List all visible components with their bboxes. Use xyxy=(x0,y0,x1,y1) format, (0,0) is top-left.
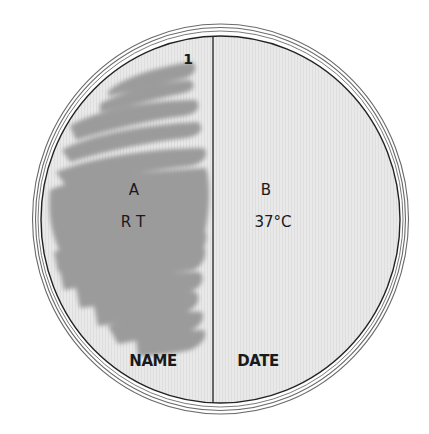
date-label: DATE xyxy=(237,354,278,369)
room-temperature-label: R T xyxy=(121,215,145,230)
name-label: NAME xyxy=(129,354,176,369)
streak-number-label: 1 xyxy=(183,52,193,66)
temperature-37c-label: 37°C xyxy=(254,215,291,230)
section-b-label: B xyxy=(261,183,271,198)
section-a-label: A xyxy=(129,183,139,198)
petri-dish-diagram xyxy=(0,0,429,434)
